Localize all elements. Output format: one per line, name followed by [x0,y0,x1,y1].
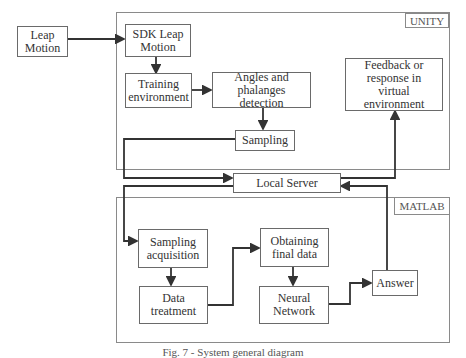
sampling-node: Sampling [235,130,295,151]
local-server-node: Local Server [233,173,341,193]
leap-motion-node: Leap Motion [17,26,68,57]
feedback-node: Feedback or response in virtual environm… [345,58,443,111]
angles-phalanges-node: Angles and phalanges detection [212,72,311,108]
sampling-acquisition-node: Sampling acquisition [138,229,208,268]
data-treatment-node: Data treatment [139,286,208,324]
neural-network-node: Neural Network [259,286,329,324]
obtaining-final-data-node: Obtaining final data [260,228,329,267]
training-environment-node: Training environment [125,73,192,108]
answer-node: Answer [372,270,418,296]
sdk-leap-motion-node: SDK Leap Motion [125,24,191,57]
figure-caption: Fig. 7 - System general diagram [0,346,466,358]
